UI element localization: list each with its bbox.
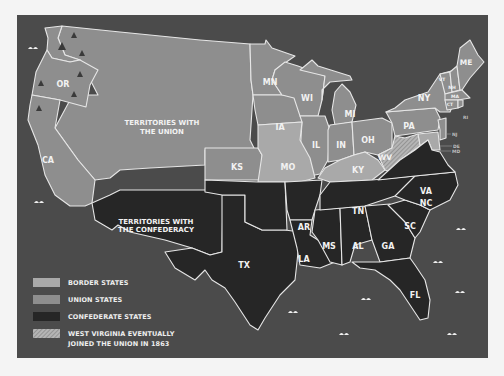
wave-icon (34, 201, 44, 203)
label-nc: NC (420, 199, 433, 208)
label-al: AL (352, 242, 363, 251)
wave-icon (456, 228, 466, 230)
label-me: ME (460, 58, 473, 67)
state-ri (458, 100, 463, 108)
label-confederate-territories-2: THE CONFEDERACY (118, 226, 195, 234)
label-union-territories-2: THE UNION (140, 128, 184, 136)
wave-icon (28, 47, 38, 49)
label-mo: MO (281, 163, 296, 172)
legend-swatch-hatched (33, 329, 60, 338)
label-mn: MN (263, 78, 278, 87)
wave-icon (455, 291, 465, 293)
label-wv: WV (378, 153, 392, 162)
label-union-territories: TERRITORIES WITH (125, 119, 200, 127)
label-ar: AR (298, 223, 310, 232)
label-ca: CA (42, 156, 55, 165)
label-or: OR (57, 80, 70, 89)
legend-label: UNION STATES (68, 295, 122, 305)
label-ct: CT (447, 102, 454, 107)
legend-label: CONFEDERATE STATES (68, 312, 152, 322)
label-il: IL (312, 141, 320, 150)
label-confederate-territories: TERRITORIES WITH (119, 218, 194, 226)
label-ga: GA (382, 242, 396, 251)
legend-swatch-confederate (33, 312, 60, 321)
label-la: LA (298, 255, 310, 264)
label-ny: NY (418, 94, 431, 103)
civil-war-map: TERRITORIES WITH THE UNION TERRITORIES W… (17, 15, 488, 358)
label-in: IN (336, 141, 346, 150)
label-md: MD (452, 149, 460, 154)
label-pa: PA (403, 122, 415, 131)
label-sc: SC (404, 222, 416, 231)
legend-swatch-border (33, 278, 60, 287)
legend-item-union-states: UNION STATES (33, 295, 175, 306)
label-va: VA (420, 187, 433, 196)
legend-item-confederate-states: CONFEDERATE STATES (33, 312, 175, 323)
label-ky: KY (352, 166, 364, 175)
legend-label: BORDER STATES (68, 278, 129, 288)
label-ms: MS (322, 242, 336, 251)
label-tn: TN (352, 207, 364, 216)
legend-label: WEST VIRGINIA EVENTUALLY (68, 329, 175, 339)
label-vt: VT (439, 77, 446, 82)
legend-item-west-virginia: WEST VIRGINIA EVENTUALLY JOINED THE UNIO… (33, 329, 175, 351)
label-ks: KS (231, 163, 243, 172)
label-wi: WI (301, 94, 313, 103)
label-nh: NH (448, 85, 456, 90)
wave-icon (447, 333, 457, 335)
legend: BORDER STATES UNION STATES CONFEDERATE S… (33, 278, 175, 357)
label-ri: RI (463, 115, 468, 120)
legend-item-border-states: BORDER STATES (33, 278, 175, 289)
wave-icon (433, 261, 443, 263)
state-fl (352, 258, 430, 320)
wave-icon (361, 298, 371, 300)
label-mi: MI (345, 110, 356, 119)
label-oh: OH (361, 136, 375, 145)
wave-icon (288, 311, 298, 313)
label-ma: MA (451, 94, 459, 99)
state-nj (438, 118, 446, 140)
label-tx: TX (238, 261, 250, 270)
wave-icon (339, 333, 349, 335)
legend-label-line2: JOINED THE UNION IN 1863 (68, 339, 175, 349)
label-fl: FL (410, 291, 421, 300)
legend-swatch-union (33, 295, 60, 304)
label-nj: NJ (452, 132, 458, 137)
label-ia: IA (275, 123, 285, 132)
